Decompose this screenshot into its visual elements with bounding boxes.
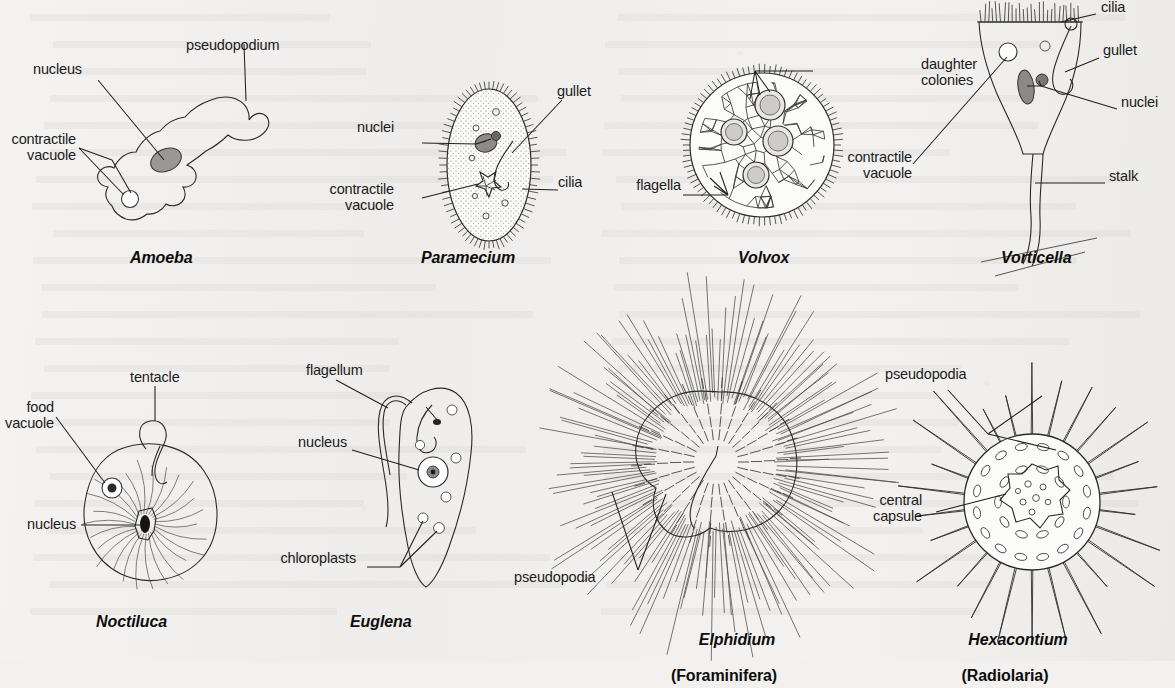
leader-pseudopodia	[948, 390, 988, 434]
paramecium-body	[447, 89, 531, 241]
hexacontium-shell	[964, 434, 1100, 570]
caption-paramecium: Paramecium	[421, 249, 515, 267]
caption-hexacontium: Hexacontium (Radiolaria)	[915, 613, 1095, 688]
label-paramecium-contractile-vacuole: contractile vacuole	[310, 182, 394, 213]
label-amoeba-pseudopodium: pseudopodium	[186, 38, 279, 54]
label-vorticella-cilia: cilia	[1101, 0, 1125, 16]
caption-euglena: Euglena	[350, 613, 412, 631]
caption-elphidium-group: (Foraminifera)	[644, 667, 804, 685]
leader-food-vacuole	[56, 417, 105, 483]
panel-paramecium: nuclei gullet contractile vacuole cilia …	[300, 0, 600, 300]
caption-elphidium: Elphidium (Foraminifera)	[644, 613, 804, 688]
label-vorticella-contractile-vacuole: contractile vacuole	[835, 150, 912, 181]
leader-flagellum	[336, 380, 388, 408]
panel-euglena: flagellum nucleus chloroplasts Euglena	[260, 345, 560, 661]
label-amoeba-nucleus: nucleus	[33, 62, 82, 78]
leader-nuclei	[1041, 86, 1117, 109]
caption-volvox: Volvox	[738, 249, 789, 267]
label-vorticella-nuclei: nuclei	[1121, 95, 1158, 111]
label-noctiluca-nucleus: nucleus	[0, 517, 76, 533]
panel-hexacontium: pseudopodia central capsule Hexacontium …	[860, 330, 1175, 661]
paramecium-micronucleus	[491, 131, 500, 140]
caption-elphidium-genus: Elphidium	[699, 631, 775, 648]
label-euglena-flagellum: flagellum	[306, 363, 363, 379]
leader-pseudopodia	[638, 494, 666, 570]
vorticella-stalk	[1023, 154, 1033, 264]
label-elphidium-pseudopodia: pseudopodia	[514, 570, 595, 586]
label-vorticella-gullet: gullet	[1103, 43, 1137, 59]
label-hexacontium-pseudopodia: pseudopodia	[885, 367, 966, 383]
label-hexacontium-central-capsule: central capsule	[848, 493, 922, 524]
panel-vorticella: cilia gullet nuclei contractile vacuole …	[875, 0, 1175, 300]
elphidium-pseudopodia	[539, 272, 898, 660]
leader-gullet	[1065, 58, 1099, 72]
panel-noctiluca: tentacle food vacuole nucleus Noctiluca	[0, 345, 300, 661]
caption-amoeba: Amoeba	[130, 249, 193, 267]
label-euglena-chloroplasts: chloroplasts	[250, 551, 356, 567]
leader-nucleus	[98, 80, 164, 160]
label-paramecium-nuclei: nuclei	[330, 120, 394, 136]
label-noctiluca-food-vacuole: food vacuole	[0, 400, 54, 431]
leader-contractile-vacuole	[913, 57, 1007, 164]
label-paramecium-gullet: gullet	[557, 84, 591, 100]
vorticella-contractile-vacuole	[999, 43, 1017, 61]
vorticella-cilia	[980, 1, 1079, 22]
label-paramecium-cilia: cilia	[558, 175, 582, 191]
caption-hexacontium-genus: Hexacontium	[968, 631, 1067, 648]
amoeba-contractile-vacuole	[122, 191, 139, 208]
vorticella-macronucleus	[1016, 69, 1037, 105]
caption-vorticella: Vorticella	[1001, 249, 1071, 267]
vorticella-micronucleus	[1036, 74, 1048, 86]
amoeba-nucleus	[147, 143, 185, 176]
leader-nucleus	[352, 450, 419, 470]
vorticella-gullet	[1053, 26, 1073, 94]
caption-noctiluca: Noctiluca	[96, 613, 167, 631]
label-euglena-nucleus: nucleus	[258, 435, 347, 451]
label-volvox-flagella: flagella	[600, 178, 681, 194]
caption-hexacontium-group: (Radiolaria)	[915, 667, 1095, 685]
leader-contractile-vacuole-2	[79, 148, 123, 194]
panel-amoeba: nucleus pseudopodium contractile vacuole…	[0, 0, 300, 300]
label-vorticella-stalk: stalk	[1109, 169, 1138, 185]
label-noctiluca-tentacle: tentacle	[130, 370, 180, 386]
label-amoeba-contractile-vacuole: contractile vacuole	[0, 132, 76, 163]
